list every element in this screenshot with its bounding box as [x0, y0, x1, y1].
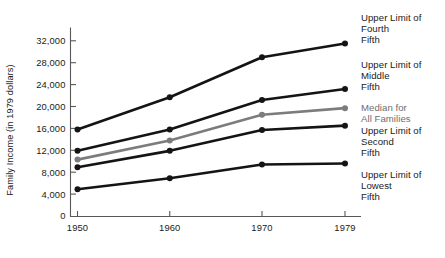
x-tick-label: 1979 — [334, 222, 355, 233]
series-1 — [75, 41, 349, 133]
legend-label-line: Fourth — [361, 23, 389, 34]
y-tick-label: 16,000 — [36, 123, 65, 134]
data-point — [342, 105, 348, 111]
data-point — [342, 123, 348, 129]
series-line — [78, 126, 346, 168]
series-2 — [75, 86, 349, 154]
legend-label-line: Upper Limit of — [361, 125, 422, 136]
data-point — [259, 162, 265, 168]
legend-label-line: Upper Limit of — [361, 169, 422, 180]
legend-item-5: Upper Limit ofLowestFifth — [361, 169, 422, 203]
data-point — [75, 127, 81, 133]
data-point — [342, 160, 348, 166]
series-line — [78, 163, 346, 189]
data-point — [342, 41, 348, 47]
family-income-line-chart: 04,0008,00012,00016,00020,00024,00028,00… — [0, 0, 445, 258]
y-tick-label: 12,000 — [36, 145, 65, 156]
data-point — [259, 127, 265, 133]
legend-label-line: Lowest — [361, 180, 392, 191]
legend-label-line: Fifth — [361, 147, 380, 158]
y-tick-label: 24,000 — [36, 79, 65, 90]
legend-item-1: Upper Limit ofFourthFifth — [361, 12, 422, 46]
data-point — [75, 186, 81, 192]
y-tick-label: 8,000 — [42, 167, 66, 178]
data-point — [167, 127, 173, 133]
data-point — [75, 164, 81, 170]
x-axis-ticks: 1950196019701979 — [67, 211, 356, 233]
chart-canvas: 04,0008,00012,00016,00020,00024,00028,00… — [0, 0, 445, 258]
x-tick-label: 1960 — [159, 222, 180, 233]
legend-item-2: Upper Limit ofMiddleFifth — [361, 59, 422, 93]
data-point — [167, 175, 173, 181]
x-tick-label: 1950 — [67, 222, 88, 233]
data-point — [259, 54, 265, 60]
legend-label-line: Fifth — [361, 191, 380, 202]
y-tick-label: 4,000 — [42, 189, 66, 200]
legend-label-line: Fifth — [361, 81, 380, 92]
legend-label-line: Upper Limit of — [361, 12, 422, 23]
data-point — [75, 157, 81, 163]
legend-label-line: Fifth — [361, 34, 380, 45]
y-tick-label: 0 — [60, 210, 65, 221]
y-tick-label: 20,000 — [36, 101, 65, 112]
data-point — [167, 137, 173, 143]
legend-label-line: Second — [361, 136, 394, 147]
data-point — [259, 97, 265, 103]
data-point — [167, 148, 173, 154]
x-tick-label: 1970 — [251, 222, 272, 233]
legend-item-3: Median forAll Families — [361, 102, 411, 124]
y-tick-label: 28,000 — [36, 57, 65, 68]
series-5 — [75, 160, 349, 192]
series-3 — [75, 105, 349, 162]
legend-label-line: All Families — [361, 113, 411, 124]
legend-label-line: Upper Limit of — [361, 59, 422, 70]
axis-lines — [71, 28, 362, 217]
data-series-group — [75, 41, 349, 193]
legend-label-line: Middle — [361, 70, 390, 81]
y-axis-title: Family Income (in 1979 dollars) — [5, 64, 15, 195]
chart-legend: Upper Limit ofFourthFifthUpper Limit ofM… — [361, 12, 422, 203]
data-point — [259, 112, 265, 118]
legend-item-4: Upper Limit ofSecondFifth — [361, 125, 422, 159]
chart-axes — [71, 28, 362, 217]
data-point — [167, 94, 173, 100]
legend-label-line: Median for — [361, 102, 408, 113]
data-point — [342, 86, 348, 92]
y-tick-label: 32,000 — [36, 35, 65, 46]
data-point — [75, 148, 81, 154]
